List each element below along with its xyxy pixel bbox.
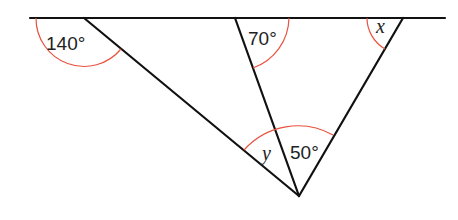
label-140: 140°	[46, 33, 85, 54]
label-50: 50°	[290, 142, 319, 163]
geometry-diagram: 140° 70° x y 50°	[0, 0, 458, 220]
label-x: x	[375, 15, 385, 37]
label-70: 70°	[248, 28, 277, 49]
label-y: y	[260, 142, 271, 165]
segment-c-p	[299, 18, 403, 196]
arc-y-50	[244, 126, 333, 150]
